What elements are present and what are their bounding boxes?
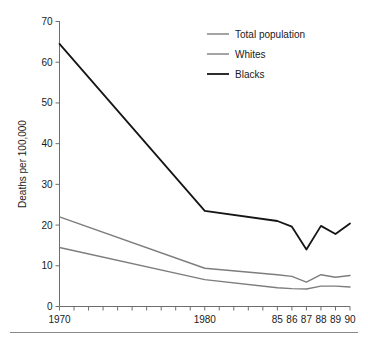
x-tick-label: 89 bbox=[330, 314, 342, 325]
y-tick-label: 60 bbox=[41, 57, 53, 68]
figure-container: 010203040506070 19701980858687888990 Dea… bbox=[0, 0, 368, 342]
y-tick-label: 10 bbox=[41, 260, 53, 271]
chart-legend: Total populationWhitesBlacks bbox=[207, 29, 305, 80]
x-tick-label: 85 bbox=[272, 314, 284, 325]
x-axis-ticks bbox=[60, 307, 351, 311]
legend-label: Blacks bbox=[235, 69, 264, 80]
legend-label: Total population bbox=[235, 29, 305, 40]
y-tick-label: 70 bbox=[41, 16, 53, 27]
y-tick-label: 20 bbox=[41, 220, 53, 231]
y-axis-ticks bbox=[56, 22, 60, 307]
x-axis-tick-labels: 19701980858687888990 bbox=[48, 314, 356, 325]
y-axis-title: Deaths per 100,000 bbox=[17, 120, 28, 208]
footer-rule bbox=[10, 332, 358, 333]
legend-label: Whites bbox=[235, 49, 266, 60]
x-tick-label: 86 bbox=[286, 314, 298, 325]
line-chart: 010203040506070 19701980858687888990 Dea… bbox=[0, 0, 368, 342]
y-axis-tick-labels: 010203040506070 bbox=[41, 16, 53, 312]
y-tick-label: 0 bbox=[47, 301, 53, 312]
y-tick-label: 30 bbox=[41, 179, 53, 190]
x-tick-label: 1970 bbox=[48, 314, 71, 325]
series-line-blacks bbox=[60, 44, 351, 250]
y-tick-label: 40 bbox=[41, 138, 53, 149]
series-group bbox=[60, 44, 351, 289]
y-tick-label: 50 bbox=[41, 97, 53, 108]
x-tick-label: 88 bbox=[315, 314, 327, 325]
x-tick-label: 87 bbox=[301, 314, 313, 325]
x-tick-label: 1980 bbox=[194, 314, 217, 325]
x-tick-label: 90 bbox=[344, 314, 356, 325]
